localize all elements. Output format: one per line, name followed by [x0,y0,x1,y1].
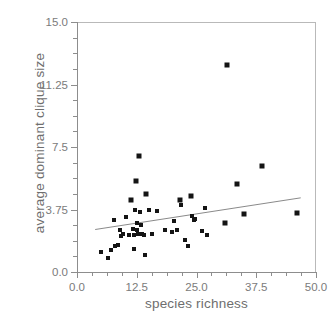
x-tick-minor [182,272,183,276]
x-tick-minor [107,272,108,276]
data-point [139,223,143,227]
data-point [183,238,187,242]
data-point [147,208,151,212]
data-point [178,197,183,202]
data-point [186,244,190,248]
y-tick-label: 0.0 [52,266,68,278]
x-tick-label: 25.0 [185,281,207,293]
data-point [170,230,174,234]
data-point [127,233,131,237]
x-tick-major [256,272,257,278]
data-point [294,210,299,215]
x-tick-minor [271,272,272,276]
data-point [179,203,183,207]
y-tick-label: 15.0 [46,16,68,28]
regression-line [77,22,316,272]
data-point [116,243,120,247]
data-point [172,219,176,223]
data-point [188,194,193,199]
x-tick-minor [301,272,302,276]
data-point [132,247,136,251]
data-point [134,179,139,184]
data-point [205,233,209,237]
data-point [203,206,207,210]
x-tick-minor [226,272,227,276]
data-point [112,218,116,222]
data-point [137,154,142,159]
data-point [142,233,146,237]
data-point [163,228,167,232]
data-point [242,211,247,216]
x-tick-major [316,272,317,278]
plot-area: 0.03.757.511.2515.0 0.012.525.037.550.0 [77,22,316,272]
x-tick-major [137,272,138,278]
data-point [124,215,128,219]
x-tick-label: 0.0 [69,281,85,293]
data-point [150,232,154,236]
data-point [234,181,239,186]
data-point [200,229,204,233]
data-point [143,253,147,257]
x-tick-minor [167,272,168,276]
data-point [155,209,159,213]
figure-scatter-plot: average dominant clique size species ric… [0,0,336,324]
data-point [138,210,142,214]
x-tick-minor [241,272,242,276]
x-tick-label: 12.5 [126,281,148,293]
y-tick-label: 11.25 [40,79,68,91]
x-tick-minor [152,272,153,276]
y-axis-title: average dominant clique size [26,18,52,268]
data-point [133,208,137,212]
y-tick-label: 3.75 [46,204,68,216]
data-point [193,217,197,221]
data-point [144,191,149,196]
x-tick-major [197,272,198,278]
x-tick-minor [286,272,287,276]
x-tick-minor [211,272,212,276]
x-tick-label: 37.5 [245,281,267,293]
x-tick-minor [92,272,93,276]
x-axis-title: species richness [77,296,316,311]
y-tick-label: 7.5 [52,141,68,153]
data-point [223,220,228,225]
x-tick-minor [122,272,123,276]
data-point [129,197,134,202]
data-point [175,228,179,232]
data-point [106,256,110,260]
x-tick-major [77,272,78,278]
data-point [259,164,264,169]
data-point [109,248,113,252]
data-point [225,63,230,68]
x-tick-label: 50.0 [305,281,327,293]
data-point [99,250,103,254]
data-point [121,232,125,236]
